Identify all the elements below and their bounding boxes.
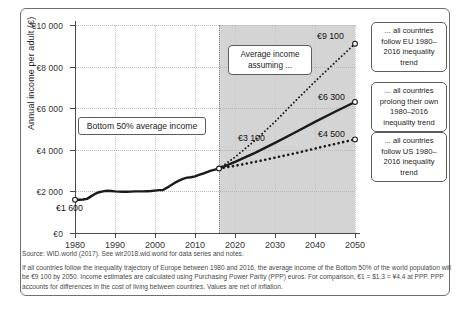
chart-figure: Annual income per adult (€) €10 000 €8 0… [0, 0, 464, 319]
y-tick-label-10000: €10 000 [32, 21, 63, 31]
x-tick-2010 [195, 233, 196, 238]
figure-notes: Source: WID.world (2017). See wir2018.wi… [22, 249, 454, 291]
marker-eu-9100 [353, 41, 358, 46]
marker-2016-3100 [217, 166, 222, 171]
callout-us-trend: ... all countries follow US 1980–2016 in… [371, 132, 447, 182]
average-income-label-box: Average income assuming ... [228, 45, 312, 75]
note-body: If all countries follow the inequality t… [22, 263, 454, 292]
x-tick-2020 [235, 233, 236, 238]
x-tick-1980 [75, 233, 76, 238]
x-tick-1990 [115, 233, 116, 238]
marker-start-1600 [73, 197, 78, 202]
y-tick-label-6000: €6 000 [36, 104, 63, 114]
y-tick-label-2000: €2 000 [36, 187, 63, 197]
x-tick-2030 [275, 233, 276, 238]
y-axis-title: Annual income per adult (€) [26, 17, 36, 130]
y-tick-label-8000: €8 000 [36, 63, 63, 73]
x-axis-line [70, 233, 360, 234]
marker-own-6300 [353, 100, 358, 105]
x-tick-2050 [355, 233, 356, 238]
x-tick-2040 [315, 233, 316, 238]
value-label-9100: €9 100 [317, 31, 344, 41]
callout-own-trend: ... all countries prolong their own 1980… [371, 82, 447, 132]
x-tick-2000 [155, 233, 156, 238]
marker-us-4500 [353, 137, 358, 142]
series-historical [75, 169, 219, 200]
value-label-6300: €6 300 [318, 92, 345, 102]
value-label-1600: €1 600 [56, 203, 83, 213]
bottom50-label-box: Bottom 50% average income [78, 117, 206, 135]
note-source: Source: WID.world (2017). See wir2018.wi… [22, 249, 454, 259]
y-tick-label-0: €0 [53, 229, 63, 239]
value-label-4500: €4 500 [318, 129, 345, 139]
callout-eu-trend: ... all countries follow EU 1980–2016 in… [371, 22, 447, 72]
y-tick-label-4000: €4 000 [36, 146, 63, 156]
value-label-3100: €3 100 [238, 133, 265, 143]
gridline-2050 [355, 25, 356, 233]
